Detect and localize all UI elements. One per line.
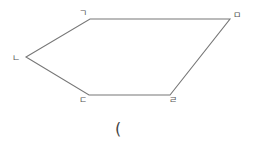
vertex-label-digeut: ㄷ (79, 95, 87, 105)
vertex-label-mieum: ㅁ (233, 10, 241, 20)
vertex-label-rieul: ㄹ (169, 95, 177, 105)
caption-paren: ( (115, 119, 121, 138)
vertex-label-giyeok: ㄱ (79, 8, 87, 18)
pentagon-shape (26, 19, 230, 95)
pentagon-diagram: ㄱ ㅁ ㄹ ㄷ ㄴ ( (0, 0, 261, 143)
vertex-label-nieun: ㄴ (12, 53, 20, 63)
